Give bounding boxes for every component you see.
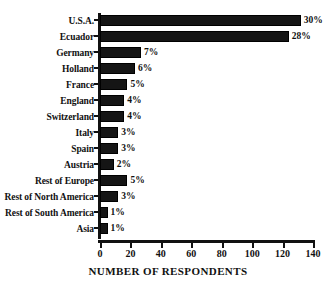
y-axis-tick bbox=[94, 147, 99, 149]
bar-value-label: 1% bbox=[111, 207, 125, 218]
bar bbox=[100, 63, 135, 74]
category-label: England bbox=[0, 96, 94, 106]
category-label: Rest of South America bbox=[0, 208, 94, 218]
bar-value-label: 5% bbox=[130, 175, 144, 186]
category-label: France bbox=[0, 80, 94, 90]
category-label: U.S.A. bbox=[0, 16, 94, 26]
category-label: Italy bbox=[0, 128, 94, 138]
y-axis-tick bbox=[94, 195, 99, 197]
bar bbox=[100, 47, 141, 58]
category-label: Asia bbox=[0, 224, 94, 234]
x-axis-tick-label: 40 bbox=[148, 248, 174, 259]
bar bbox=[100, 191, 118, 202]
category-label: Switzerland bbox=[0, 112, 94, 122]
category-label: Spain bbox=[0, 144, 94, 154]
bar-value-label: 5% bbox=[130, 79, 144, 90]
bar-value-label: 4% bbox=[127, 95, 141, 106]
y-axis-tick bbox=[94, 35, 99, 37]
y-axis-tick bbox=[94, 67, 99, 69]
bar bbox=[100, 175, 127, 186]
bar-value-label: 2% bbox=[117, 159, 131, 170]
x-axis-tick-label: 0 bbox=[87, 248, 113, 259]
y-axis-tick bbox=[94, 51, 99, 53]
category-label: Rest of Europe bbox=[0, 176, 94, 186]
y-axis-tick bbox=[94, 179, 99, 181]
category-axis-labels: U.S.A.EcuadorGermanyHollandFranceEngland… bbox=[0, 14, 97, 238]
bar-value-label: 3% bbox=[121, 143, 135, 154]
category-label: Austria bbox=[0, 160, 94, 170]
bar-value-label: 6% bbox=[138, 63, 152, 74]
y-axis-tick bbox=[94, 83, 99, 85]
bar bbox=[100, 95, 124, 106]
bar-value-label: 1% bbox=[111, 223, 125, 234]
x-axis-tick-label: 80 bbox=[209, 248, 235, 259]
x-axis-tick-label: 100 bbox=[239, 248, 265, 259]
bar-value-label: 3% bbox=[121, 127, 135, 138]
bar bbox=[100, 159, 114, 170]
y-axis-tick bbox=[94, 131, 99, 133]
y-axis-tick bbox=[94, 99, 99, 101]
bar bbox=[100, 15, 301, 26]
x-axis-title: NUMBER OF RESPONDENTS bbox=[0, 265, 336, 277]
category-label: Germany bbox=[0, 48, 94, 58]
bar-value-label: 7% bbox=[144, 47, 158, 58]
bar bbox=[100, 79, 127, 90]
category-label: Holland bbox=[0, 64, 94, 74]
x-axis-tick-label: 60 bbox=[178, 248, 204, 259]
bar-value-label: 28% bbox=[292, 31, 311, 42]
bar bbox=[100, 127, 118, 138]
bar-value-label: 3% bbox=[121, 191, 135, 202]
y-axis-tick bbox=[94, 163, 99, 165]
category-label: Rest of North America bbox=[0, 192, 94, 202]
bar bbox=[100, 143, 118, 154]
bar bbox=[100, 111, 124, 122]
x-axis-tick-label: 120 bbox=[270, 248, 296, 259]
bar bbox=[100, 31, 289, 42]
y-axis-tick bbox=[94, 19, 99, 21]
x-axis-tick-label: 140 bbox=[300, 248, 326, 259]
plot-area: 30%28%7%6%5%4%4%3%3%2%5%3%1%1% bbox=[100, 14, 313, 238]
x-axis-tick-label: 20 bbox=[117, 248, 143, 259]
bar-value-label: 30% bbox=[304, 15, 323, 26]
y-axis-tick bbox=[94, 211, 99, 213]
bar bbox=[100, 223, 108, 234]
bar-value-label: 4% bbox=[127, 111, 141, 122]
y-axis-tick bbox=[94, 227, 99, 229]
bar-chart: U.S.A.EcuadorGermanyHollandFranceEngland… bbox=[0, 0, 336, 291]
y-axis-tick bbox=[94, 115, 99, 117]
bar bbox=[100, 207, 108, 218]
category-label: Ecuador bbox=[0, 32, 94, 42]
